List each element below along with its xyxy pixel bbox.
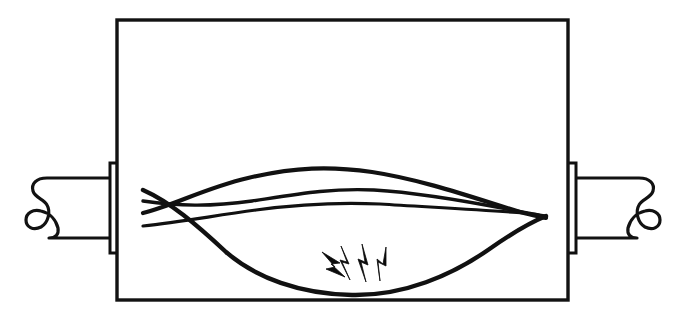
technical-diagram-figure: Arcing fault inside cable enclosure <box>0 0 687 320</box>
left-sheath-outline <box>26 178 118 238</box>
enclosure-box <box>117 20 568 300</box>
left-cable-sheath <box>26 178 118 238</box>
diagram-canvas <box>0 0 687 320</box>
right-sheath-outline <box>568 178 660 238</box>
right-cable-sheath <box>568 178 660 238</box>
